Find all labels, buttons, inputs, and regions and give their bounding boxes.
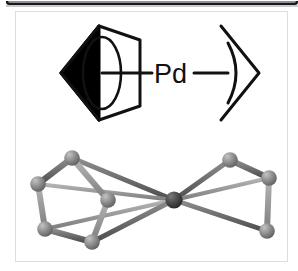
atom-sphere-cp: [84, 234, 100, 250]
atom-sphere-allyl: [261, 170, 277, 186]
atom-sphere-cp: [64, 150, 80, 166]
atom-sphere-allyl: [222, 152, 238, 168]
atom-sphere-cp: [100, 192, 116, 208]
atom-sphere-allyl: [259, 223, 275, 239]
atom-sphere-cp: [30, 176, 46, 192]
window-bottom-edge: [6, 0, 298, 8]
window-edge-shadow: [6, 5, 298, 7]
structural-formula-diagram: Pd: [16, 14, 289, 132]
atom-sphere-cp: [37, 221, 53, 237]
ball-and-stick-model: [16, 138, 289, 258]
figure-frame: Pd: [15, 11, 288, 262]
atom-sphere-palladium: [165, 191, 182, 208]
metal-atom-label: Pd: [154, 59, 187, 89]
window-edge-inner: [8, 1, 296, 3]
